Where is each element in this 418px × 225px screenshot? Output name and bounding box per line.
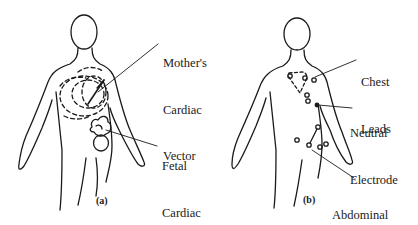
abdominal-electrodes bbox=[295, 125, 328, 149]
fetus-drawing bbox=[90, 116, 111, 151]
fetal-cardiac-vector-label: Fetal Cardiac Vector bbox=[162, 128, 201, 225]
abdominal-lead-placements-label: Abdominal Lead Placements bbox=[332, 177, 389, 225]
mother-body-outline-a bbox=[19, 15, 145, 210]
neutral-leader-line bbox=[318, 105, 352, 108]
panel-a-tag: (a) bbox=[96, 195, 108, 206]
chest-lead-wires bbox=[288, 72, 307, 93]
mother-heart-field bbox=[60, 68, 108, 120]
chest-leader-line bbox=[315, 60, 356, 77]
figure: Mother's Cardiac Vector Fetal Cardiac Ve… bbox=[0, 0, 418, 225]
panel-b-tag: (b) bbox=[303, 194, 315, 205]
